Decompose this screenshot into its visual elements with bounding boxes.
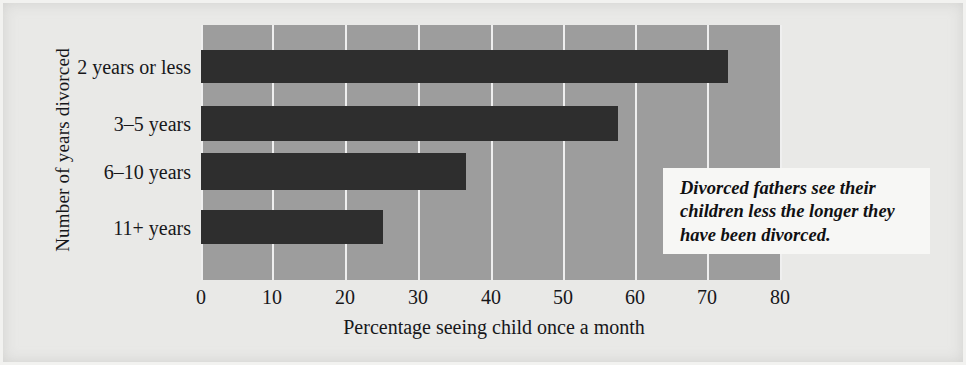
x-tick-label-40: 40: [461, 286, 521, 309]
y-tick-label-1: 3–5 years: [11, 113, 191, 136]
y-axis-title-label: Number of years divorced: [52, 0, 74, 300]
y-tick-label-2: 6–10 years: [11, 161, 191, 184]
y-axis-title: Number of years divorced: [32, 0, 66, 300]
y-tick-label-0: 2 years or less: [11, 56, 191, 79]
y-tick-label-3: 11+ years: [11, 217, 191, 240]
x-axis-title-label: Percentage seeing child once a month: [343, 316, 645, 339]
x-tick-label-30: 30: [388, 286, 448, 309]
bar-3-5-years: [201, 106, 618, 141]
bar-11-plus-years: [201, 210, 383, 244]
bar-2-years-or-less: [201, 50, 728, 83]
annotation-callout: Divorced fathers see their children less…: [663, 168, 930, 254]
annotation-text: Divorced fathers see their children less…: [680, 177, 916, 247]
x-tick-label-10: 10: [242, 286, 302, 309]
x-tick-label-50: 50: [533, 286, 593, 309]
x-tick-label-70: 70: [677, 286, 737, 309]
bar-6-10-years: [201, 153, 466, 190]
bar-chart-figure: Number of years divorced 2 years or less…: [0, 0, 966, 365]
x-tick-label-0: 0: [171, 286, 231, 309]
x-tick-label-60: 60: [605, 286, 665, 309]
x-tick-label-80: 80: [750, 286, 810, 309]
x-tick-label-20: 20: [315, 286, 375, 309]
x-axis-title: Percentage seeing child once a month: [0, 316, 966, 339]
